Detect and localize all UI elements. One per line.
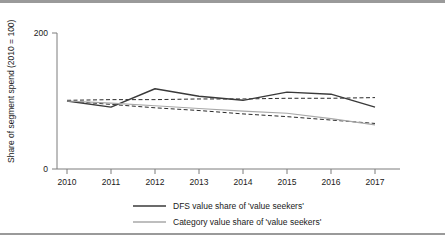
x-tick-label-2010: 2010 xyxy=(58,177,77,187)
x-tick-marks xyxy=(67,169,375,174)
x-tick-label-2015: 2015 xyxy=(278,177,297,187)
legend-label-dfs: DFS value share of 'value seekers' xyxy=(173,201,304,211)
category-trendline xyxy=(67,101,375,123)
x-tick-label-2014: 2014 xyxy=(234,177,253,187)
x-tick-label-2017: 2017 xyxy=(366,177,385,187)
y-axis-label: Share of segment spend (2010 = 100) xyxy=(6,19,16,163)
x-tick-labels: 2010 2011 2012 2013 2014 2015 2016 2017 xyxy=(58,177,385,187)
x-tick-label-2013: 2013 xyxy=(190,177,209,187)
chart-legend: DFS value share of 'value seekers' Categ… xyxy=(133,201,322,227)
figure-page: Share of segment spend (2010 = 100) 200 … xyxy=(0,0,445,235)
chart-svg: Share of segment spend (2010 = 100) 200 … xyxy=(0,3,445,235)
y-tick-label-0: 0 xyxy=(43,164,48,174)
legend-label-category: Category value share of 'value seekers' xyxy=(173,217,322,227)
y-tick-label-200: 200 xyxy=(34,28,48,38)
x-tick-label-2016: 2016 xyxy=(322,177,341,187)
x-tick-label-2012: 2012 xyxy=(146,177,165,187)
x-tick-label-2011: 2011 xyxy=(102,177,121,187)
line-chart-figure: Share of segment spend (2010 = 100) 200 … xyxy=(0,3,445,235)
